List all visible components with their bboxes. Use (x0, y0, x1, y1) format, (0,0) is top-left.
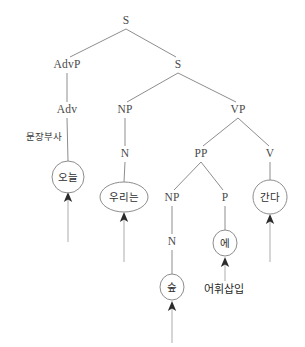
syntax-tree-diagram: S AdvP S Adv NP VP N PP V NP P N 오늘 우리는 … (0, 0, 305, 347)
annotation-labels: 문장부사 어휘삽입 (26, 131, 244, 297)
node-label-n-subject: N (121, 147, 130, 159)
edge-s-embedded-to-vp (178, 73, 236, 102)
node-label-vp: VP (230, 103, 245, 115)
node-label-s-embedded: S (175, 58, 182, 70)
annotation-sentence-adverb: 문장부사 (26, 131, 62, 142)
edge-s-root-to-advp (70, 29, 126, 57)
node-label-np-object: NP (164, 191, 179, 203)
edge-s-root-to-s-embedded (126, 29, 176, 57)
node-label-n-object: N (168, 235, 177, 247)
word-label-ganda: 간다 (260, 191, 280, 203)
annotation-lexical-insertion: 어휘삽입 (204, 283, 244, 296)
node-label-pp: PP (194, 147, 207, 159)
node-label-s-root: S (123, 14, 130, 26)
node-label-adv: Adv (57, 103, 77, 115)
edge-vp-to-v (238, 118, 269, 146)
edge-adv-to-oneul (67, 118, 68, 161)
word-label-sup: 숲 (167, 281, 177, 293)
word-node-shapes (52, 161, 287, 300)
insertion-arrows (64, 192, 274, 343)
node-label-p: P (222, 191, 229, 203)
word-label-oneul: 오늘 (58, 171, 78, 183)
node-label-advp: AdvP (53, 58, 80, 70)
edge-pp-to-p (201, 162, 223, 190)
edge-vp-to-pp (203, 118, 238, 146)
word-label-e: 에 (220, 237, 230, 249)
node-label-v: V (266, 147, 275, 159)
edge-s-embedded-to-np (127, 73, 178, 102)
word-label-urineun: 우리는 (109, 191, 139, 203)
edge-n-subject-to-urineun (124, 162, 125, 182)
node-label-np-subject: NP (117, 103, 132, 115)
edge-pp-to-np-object (174, 162, 201, 190)
